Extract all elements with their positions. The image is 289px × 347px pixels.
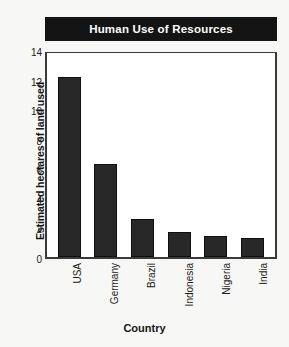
chart-title-banner: Human Use of Resources [45,17,277,41]
x-axis-tick-slot: Nigeria [206,261,229,321]
x-axis-tick: Nigeria [221,263,232,295]
bar [168,232,191,257]
y-axis-tick: 2 [22,224,42,235]
bar [58,77,81,257]
y-axis-tick: 4 [22,194,42,205]
plot-area [45,52,277,259]
x-axis-tick-labels: USAGermanyBrazilIndonesiaNigeriaIndia [45,261,277,321]
x-axis-tick-slot: Germany [94,261,117,321]
bar-chart-figure: Human Use of Resources Estimated hectare… [0,0,289,347]
y-axis-tick: 14 [22,47,42,58]
bar [94,164,117,257]
bar [131,219,154,257]
y-axis-tick: 10 [22,106,42,117]
y-axis-tick-labels: 02468101214 [22,0,42,347]
x-axis-tick: India [258,263,269,285]
x-axis-tick: Brazil [146,263,157,288]
x-axis-tick-slot: Brazil [131,261,154,321]
x-axis-tick: Germany [109,263,120,304]
x-axis-tick: Indonesia [184,263,195,306]
y-axis-tick: 6 [22,165,42,176]
x-axis-tick-slot: Indonesia [168,261,191,321]
chart-title: Human Use of Resources [89,23,233,35]
bar [204,236,227,257]
x-axis-title: Country [0,322,289,334]
x-axis-tick-slot: India [243,261,266,321]
y-axis-tick: 12 [22,76,42,87]
y-axis-tick: 0 [22,254,42,265]
y-axis-tick: 8 [22,135,42,146]
x-axis-tick-slot: USA [56,261,79,321]
bar [241,238,264,257]
bar-series [47,53,275,257]
x-axis-tick: USA [72,263,83,284]
